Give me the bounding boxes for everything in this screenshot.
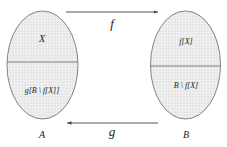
- region-b-minus-fx-label: B \ f[X]: [174, 81, 198, 90]
- region-g-label: g[B \ f[X]]: [25, 86, 60, 95]
- region-fx-label: f[X]: [179, 37, 192, 46]
- set-a-label: A: [39, 129, 45, 140]
- set-a-ellipse: [0, 11, 80, 119]
- set-b-ellipse: [148, 11, 222, 119]
- region-x-label: X: [39, 33, 45, 44]
- arrow-g-label: g: [109, 124, 116, 140]
- arrow-f-label: f: [110, 16, 114, 32]
- set-b-label: B: [183, 129, 189, 140]
